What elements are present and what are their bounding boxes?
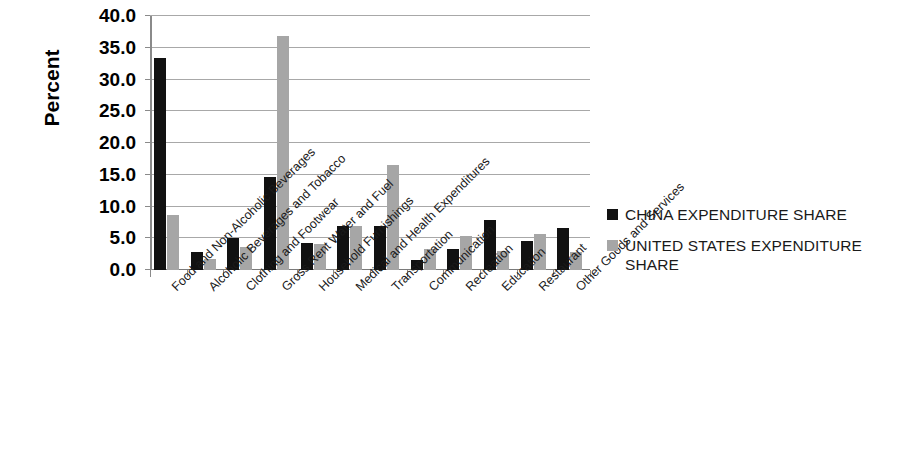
x-category-label: Other Goods and Services: [573, 284, 583, 294]
x-category-label: Education: [499, 284, 509, 294]
x-category-label: Transportation: [389, 284, 399, 294]
x-category-label: Recreation: [463, 284, 473, 294]
bar-group: [517, 16, 554, 270]
y-tick-label: 10.0: [74, 197, 136, 216]
legend-swatch-icon: [607, 240, 618, 251]
y-tick-label: 5.0: [74, 228, 136, 247]
bar-group: [187, 16, 224, 270]
legend-item[interactable]: UNITED STATES EXPENDITURE SHARE: [607, 236, 907, 274]
x-category-label: Clothing and Footwear: [243, 284, 253, 294]
y-tick-label: 35.0: [74, 38, 136, 57]
y-tick-label: 40.0: [74, 6, 136, 25]
legend-label: UNITED STATES EXPENDITURE SHARE: [625, 236, 907, 274]
bar: [277, 36, 289, 270]
legend-swatch-icon: [607, 209, 618, 220]
x-category-label: Alcoholic Beverages and Tobacco: [206, 284, 216, 294]
bar-group: [553, 16, 590, 270]
bar-group: [150, 16, 187, 270]
legend-label: CHINA EXPENDITURE SHARE: [625, 205, 847, 224]
bar: [167, 215, 179, 270]
chart-legend: CHINA EXPENDITURE SHAREUNITED STATES EXP…: [607, 205, 907, 286]
y-tick-label: 0.0: [74, 260, 136, 279]
x-category-label: Gross Rent Water and Fuel: [279, 284, 289, 294]
y-tick-label: 15.0: [74, 165, 136, 184]
legend-item[interactable]: CHINA EXPENDITURE SHARE: [607, 205, 907, 224]
x-category-label: Restaurant: [536, 284, 546, 294]
y-tick-label: 25.0: [74, 101, 136, 120]
y-axis-tick-labels: 40.035.030.025.020.015.010.05.00.0: [74, 16, 136, 270]
y-tick-label: 30.0: [74, 70, 136, 89]
x-axis-category-labels: Food and Non-Alcoholic BeveragesAlcoholi…: [0, 278, 620, 459]
chart-figure: Percent 40.035.030.025.020.015.010.05.00…: [0, 0, 909, 459]
x-category-label: Communication: [426, 284, 436, 294]
x-category-label: Food and Non-Alcoholic Beverages: [169, 284, 179, 294]
y-axis-title: Percent: [40, 28, 64, 148]
x-category-label: Household Furnishings: [316, 284, 326, 294]
x-category-label: Medical and Health Expenditures: [353, 284, 363, 294]
x-tick-mark: [150, 270, 151, 277]
y-tick-label: 20.0: [74, 133, 136, 152]
bar: [154, 58, 166, 270]
